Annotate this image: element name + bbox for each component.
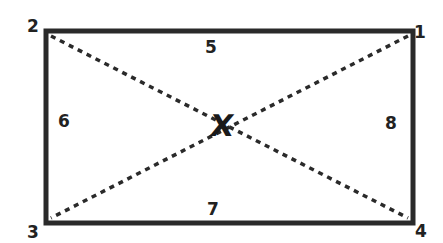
edge-label-7: 7 xyxy=(207,201,219,218)
edge-label-8: 8 xyxy=(385,115,397,132)
corner-label-2: 2 xyxy=(27,18,39,35)
center-x-mark: X xyxy=(208,111,235,141)
corner-label-1: 1 xyxy=(414,24,426,41)
corner-label-3: 3 xyxy=(27,224,39,241)
edge-label-6: 6 xyxy=(58,113,70,130)
edge-label-5: 5 xyxy=(205,39,217,56)
corner-label-4: 4 xyxy=(415,223,427,240)
rectangle-diagram: 2 1 3 4 5 6 7 8 X xyxy=(0,0,443,243)
